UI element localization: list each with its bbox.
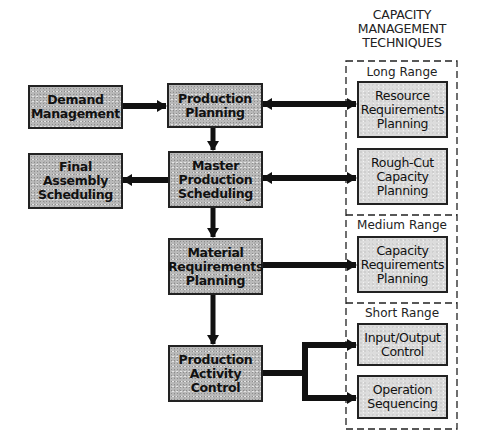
operation-sequencing-box: Operation Sequencing bbox=[357, 375, 448, 419]
medium-range-label: Medium Range bbox=[346, 218, 458, 232]
input-output-control-box: Input/Output Control bbox=[357, 323, 448, 366]
material-requirements-planning-box: Material Requirements Planning bbox=[168, 238, 263, 295]
production-activity-control-box: Production Activity Control bbox=[168, 345, 263, 402]
short-range-label: Short Range bbox=[346, 306, 458, 320]
production-planning-box: Production Planning bbox=[167, 83, 263, 128]
long-range-label: Long Range bbox=[346, 65, 458, 79]
demand-management-box: Demand Management bbox=[28, 85, 123, 129]
resource-requirements-planning-box: Resource Requirements Planning bbox=[357, 81, 448, 138]
capacity-management-diagram: CAPACITY MANAGEMENT TECHNIQUES bbox=[0, 0, 484, 446]
rough-cut-capacity-planning-box: Rough-Cut Capacity Planning bbox=[357, 148, 448, 205]
master-production-scheduling-box: Master Production Scheduling bbox=[168, 151, 263, 208]
final-assembly-scheduling-box: Final Assembly Scheduling bbox=[28, 153, 123, 209]
capacity-requirements-planning-box: Capacity Requirements Planning bbox=[357, 236, 448, 293]
